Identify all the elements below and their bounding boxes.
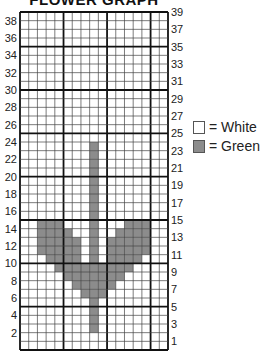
green-cell (90, 159, 99, 168)
green-cell (90, 289, 99, 298)
green-cell (90, 211, 99, 220)
green-cell (107, 281, 116, 290)
row-label-right: 31 (171, 76, 183, 87)
green-cell (98, 289, 107, 298)
green-cell (90, 263, 99, 272)
green-cell (64, 263, 73, 272)
row-label-right: 13 (171, 232, 183, 243)
row-label-right: 21 (171, 163, 183, 174)
green-cell (81, 281, 90, 290)
green-cell (81, 272, 90, 281)
green-cell (46, 255, 55, 264)
green-cell (81, 263, 90, 272)
row-label-right: 11 (171, 250, 182, 261)
green-cell (90, 307, 99, 316)
green-cell (124, 220, 133, 229)
green-cell (46, 246, 55, 255)
green-cell (90, 151, 99, 160)
row-label-right: 1 (171, 336, 177, 347)
green-cell (90, 246, 99, 255)
row-label-left: 16 (5, 206, 17, 217)
green-cell (46, 220, 55, 229)
row-label-right: 37 (171, 24, 183, 35)
green-cell (37, 220, 46, 229)
green-cell (72, 246, 81, 255)
green-cell (124, 255, 133, 264)
green-cell (107, 246, 116, 255)
green-cell (64, 255, 73, 264)
green-cell (37, 246, 46, 255)
graph-title: FLOWER GRAPH (20, 0, 168, 8)
green-cell (142, 246, 151, 255)
green-cell (55, 220, 64, 229)
row-label-right: 39 (171, 7, 183, 18)
row-label-left: 38 (5, 16, 17, 27)
green-cell (133, 246, 142, 255)
green-cell (116, 229, 125, 238)
green-cell (90, 281, 99, 290)
row-label-right: 35 (171, 42, 183, 53)
green-cell (90, 185, 99, 194)
green-cell (107, 263, 116, 272)
row-label-left: 8 (11, 276, 17, 287)
row-label-left: 18 (5, 189, 17, 200)
legend-white: = White (193, 119, 257, 135)
row-label-right: 27 (171, 111, 183, 122)
row-label-left: 2 (11, 328, 17, 339)
green-cell (46, 237, 55, 246)
green-cell (72, 272, 81, 281)
green-cell (55, 237, 64, 246)
green-cell (107, 237, 116, 246)
green-cell (72, 263, 81, 272)
green-cell (116, 255, 125, 264)
green-cell (55, 263, 64, 272)
row-label-right: 5 (171, 302, 177, 313)
green-cell (107, 272, 116, 281)
legend-white-label: = White (209, 119, 257, 135)
green-cell (55, 246, 64, 255)
row-label-right: 7 (171, 284, 177, 295)
green-cell (124, 237, 133, 246)
row-label-left: 10 (5, 258, 17, 269)
green-cell (90, 324, 99, 333)
green-cell (90, 177, 99, 186)
row-label-left: 32 (5, 68, 17, 79)
row-label-right: 29 (171, 94, 183, 105)
row-label-right: 9 (171, 267, 177, 278)
row-label-left: 34 (5, 50, 17, 61)
green-cell (133, 220, 142, 229)
legend-green: = Green (193, 138, 260, 154)
green-cell (142, 220, 151, 229)
white-swatch-icon (193, 121, 205, 134)
green-cell (124, 246, 133, 255)
green-cell (64, 246, 73, 255)
row-label-right: 3 (171, 319, 177, 330)
green-cell (64, 237, 73, 246)
green-cell (64, 272, 73, 281)
green-swatch-icon (193, 140, 205, 153)
green-cell (37, 237, 46, 246)
green-cell (133, 237, 142, 246)
row-label-left: 6 (11, 293, 17, 304)
row-label-left: 28 (5, 102, 17, 113)
row-label-left: 24 (5, 137, 17, 148)
row-label-right: 19 (171, 180, 183, 191)
green-cell (72, 281, 81, 290)
green-cell (90, 194, 99, 203)
green-cell (90, 298, 99, 307)
green-cell (90, 315, 99, 324)
green-cell (55, 255, 64, 264)
green-cell (72, 255, 81, 264)
row-label-left: 22 (5, 154, 17, 165)
green-cell (55, 229, 64, 238)
green-cell (98, 281, 107, 290)
green-cell (81, 289, 90, 298)
green-cell (124, 229, 133, 238)
row-label-right: 25 (171, 128, 183, 139)
row-label-left: 30 (5, 85, 17, 96)
green-cell (90, 255, 99, 264)
green-cell (133, 255, 142, 264)
green-cell (116, 246, 125, 255)
row-label-left: 14 (5, 224, 17, 235)
row-label-left: 26 (5, 120, 17, 131)
